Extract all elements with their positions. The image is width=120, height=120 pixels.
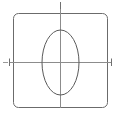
geometry-diagram: [0, 0, 120, 120]
figure-canvas: [0, 0, 120, 120]
